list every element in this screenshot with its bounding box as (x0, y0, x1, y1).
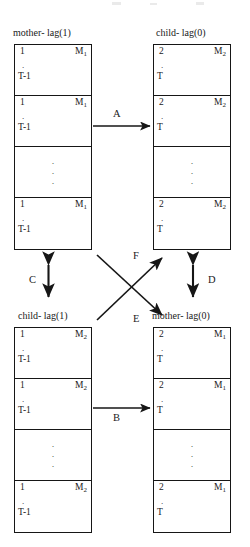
cell-variable-label: M2 (214, 199, 226, 213)
cell-start-index: 2 (159, 199, 164, 210)
block-child-lag-1: 1 M2 . T-1 1 M2 . T-1 · · · 1 M2 . T-1 (14, 327, 92, 533)
arrow-label-E: E (133, 313, 139, 325)
cell-middle-dot: . (161, 112, 163, 120)
block-cell: 2 M1 . T (154, 481, 230, 532)
cell-start-index: 1 (20, 199, 25, 210)
block-cell: 1 M1 . T-1 (15, 45, 91, 96)
caption-child-lag-1: child- lag(1) (18, 310, 68, 322)
block-cell-ellipsis: · · · (15, 147, 91, 198)
cell-variable-label: M1 (214, 482, 226, 496)
cell-middle-dot: . (22, 112, 24, 120)
cell-end-index: T (157, 71, 163, 82)
cell-middle-dot: . (22, 395, 24, 403)
cell-middle-dot: . (22, 61, 24, 69)
vertical-ellipsis-icon: · · · (15, 158, 91, 188)
block-cell: 2 M2 . T (154, 198, 230, 249)
arrow-label-B: B (113, 412, 120, 424)
arrow-label-C: C (29, 274, 36, 286)
cell-end-index: T-1 (18, 122, 31, 133)
cell-middle-dot: . (161, 214, 163, 222)
block-cell: 2 M1 . T (154, 379, 230, 430)
scan-artifact (150, 3, 157, 5)
cell-start-index: 1 (20, 97, 25, 108)
block-mother-lag-0: 2 M1 . T 2 M1 . T · · · 2 M1 . T (153, 327, 231, 533)
block-cell-ellipsis: · · · (154, 430, 230, 481)
cell-variable-label: M1 (75, 46, 87, 60)
block-cell: 1 M2 . T-1 (15, 328, 91, 379)
cell-start-index: 2 (159, 97, 164, 108)
cell-variable-label: M2 (75, 380, 87, 394)
arrow-E (97, 255, 162, 315)
cell-end-index: T (157, 224, 163, 235)
cell-end-index: T (157, 122, 163, 133)
block-cell: 2 M1 . T (154, 328, 230, 379)
cell-end-index: T-1 (18, 354, 31, 365)
cell-start-index: 1 (20, 329, 25, 340)
caption-mother-lag-0: mother- lag(0) (152, 310, 210, 322)
cell-middle-dot: . (161, 497, 163, 505)
block-cell: 1 M1 . T-1 (15, 96, 91, 147)
cell-middle-dot: . (22, 497, 24, 505)
cell-variable-label: M1 (214, 329, 226, 343)
block-cell: 2 M2 . T (154, 45, 230, 96)
cell-end-index: T (157, 405, 163, 416)
cell-start-index: 1 (20, 380, 25, 391)
block-cell: 1 M2 . T-1 (15, 379, 91, 430)
cell-variable-label: M2 (214, 46, 226, 60)
vertical-ellipsis-icon: · · · (154, 441, 230, 471)
cell-end-index: T (157, 507, 163, 518)
cell-variable-label: M2 (214, 97, 226, 111)
cell-variable-label: M2 (75, 482, 87, 496)
cell-end-index: T-1 (18, 224, 31, 235)
vertical-ellipsis-icon: · · · (15, 441, 91, 471)
cell-start-index: 2 (159, 46, 164, 57)
cell-start-index: 1 (20, 46, 25, 57)
figure-canvas: mother- lag(1) child- lag(0) child- lag(… (0, 0, 250, 547)
cell-middle-dot: . (22, 344, 24, 352)
block-cell: 1 M1 . T-1 (15, 198, 91, 249)
cell-middle-dot: . (22, 214, 24, 222)
cell-middle-dot: . (161, 344, 163, 352)
block-mother-lag-1: 1 M1 . T-1 1 M1 . T-1 · · · 1 M1 . T-1 (14, 44, 92, 250)
block-cell-ellipsis: · · · (15, 430, 91, 481)
cell-start-index: 2 (159, 380, 164, 391)
cell-end-index: T-1 (18, 507, 31, 518)
cell-middle-dot: . (161, 395, 163, 403)
cell-variable-label: M1 (75, 199, 87, 213)
scan-artifact (196, 2, 204, 5)
cell-variable-label: M2 (75, 329, 87, 343)
cell-variable-label: M1 (214, 380, 226, 394)
cell-start-index: 2 (159, 482, 164, 493)
block-cell-ellipsis: · · · (154, 147, 230, 198)
cell-end-index: T (157, 354, 163, 365)
block-cell: 2 M2 . T (154, 96, 230, 147)
arrow-label-F: F (133, 250, 139, 262)
arrow-label-D: D (208, 274, 216, 286)
scan-artifact (112, 2, 121, 5)
cell-variable-label: M1 (75, 97, 87, 111)
cell-middle-dot: . (161, 61, 163, 69)
block-child-lag-0: 2 M2 . T 2 M2 . T · · · 2 M2 . T (153, 44, 231, 250)
cell-end-index: T-1 (18, 405, 31, 416)
block-cell: 1 M2 . T-1 (15, 481, 91, 532)
vertical-ellipsis-icon: · · · (154, 158, 230, 188)
caption-child-lag-0: child- lag(0) (156, 27, 206, 39)
cell-end-index: T-1 (18, 71, 31, 82)
cell-start-index: 1 (20, 482, 25, 493)
arrow-label-A: A (113, 108, 121, 120)
caption-mother-lag-1: mother- lag(1) (13, 27, 71, 39)
cell-start-index: 2 (159, 329, 164, 340)
